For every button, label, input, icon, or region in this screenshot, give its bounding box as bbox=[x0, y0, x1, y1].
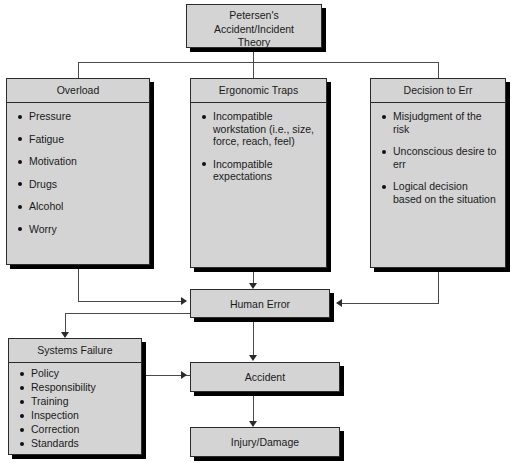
box-systems-failure-list: Policy Responsibility Training Inspectio… bbox=[9, 363, 141, 456]
connector-decision-left bbox=[342, 303, 439, 304]
list-item: Logical decision based on the situation bbox=[381, 180, 499, 205]
box-ergonomic-traps-list: Incompatible workstation (i.e., size, fo… bbox=[191, 103, 326, 189]
box-decision-to-err-list: Misjudgment of the risk Unconscious desi… bbox=[371, 103, 505, 211]
connector-human-error-down bbox=[253, 318, 254, 359]
arrowhead-human-error-to-accident bbox=[249, 355, 257, 361]
arrowhead-decision-to-human-error bbox=[336, 299, 342, 307]
connector-overload-down bbox=[78, 265, 79, 301]
box-ergonomic-traps-header: Ergonomic Traps bbox=[191, 79, 326, 103]
arrowhead-systems-failure-to-accident bbox=[181, 371, 187, 379]
box-human-error[interactable]: Human Error bbox=[190, 289, 330, 318]
list-item: Training bbox=[19, 395, 135, 408]
list-item: Worry bbox=[17, 223, 143, 236]
list-item: Motivation bbox=[17, 155, 143, 168]
list-item: Correction bbox=[19, 423, 135, 436]
list-item: Inspection bbox=[19, 409, 135, 422]
box-title: Petersen's Accident/Incident Theory bbox=[187, 5, 321, 55]
title-line-3: Theory bbox=[191, 36, 317, 50]
list-item: Alcohol bbox=[17, 200, 143, 213]
box-petersens-theory[interactable]: Petersen's Accident/Incident Theory bbox=[186, 4, 322, 48]
list-item: Drugs bbox=[17, 178, 143, 191]
box-injury-damage-label: Injury/Damage bbox=[191, 428, 339, 457]
box-decision-to-err-header: Decision to Err bbox=[371, 79, 505, 103]
list-item: Policy bbox=[19, 367, 135, 380]
box-accident[interactable]: Accident bbox=[190, 362, 340, 392]
arrowhead-overload-to-human-error bbox=[181, 297, 187, 305]
connector-bus-to-ergonomic bbox=[253, 62, 254, 78]
list-item: Fatigue bbox=[17, 133, 143, 146]
connector-top-bus bbox=[78, 62, 438, 63]
connector-bus-to-decision bbox=[438, 62, 439, 78]
box-overload-list: Pressure Fatigue Motivation Drugs Alcoho… bbox=[7, 103, 149, 241]
box-ergonomic-traps[interactable]: Ergonomic Traps Incompatible workstation… bbox=[190, 78, 327, 268]
connector-decision-down bbox=[438, 268, 439, 303]
box-overload-header: Overload bbox=[7, 79, 149, 103]
list-item: Misjudgment of the risk bbox=[381, 110, 499, 135]
box-overload[interactable]: Overload Pressure Fatigue Motivation Dru… bbox=[6, 78, 150, 265]
connector-bus-to-overload bbox=[78, 62, 79, 78]
box-human-error-label: Human Error bbox=[191, 290, 329, 319]
box-accident-label: Accident bbox=[191, 363, 339, 392]
list-item: Incompatible workstation (i.e., size, fo… bbox=[201, 110, 320, 148]
box-systems-failure-header: Systems Failure bbox=[9, 339, 141, 363]
box-systems-failure[interactable]: Systems Failure Policy Responsibility Tr… bbox=[8, 338, 142, 455]
connector-human-error-left bbox=[65, 313, 190, 314]
list-item: Responsibility bbox=[19, 381, 135, 394]
list-item: Pressure bbox=[17, 110, 143, 123]
title-line-1: Petersen's bbox=[191, 9, 317, 23]
title-line-2: Accident/Incident bbox=[191, 23, 317, 37]
box-decision-to-err[interactable]: Decision to Err Misjudgment of the risk … bbox=[370, 78, 506, 268]
connector-overload-right bbox=[78, 301, 182, 302]
list-item: Incompatible expectations bbox=[201, 158, 320, 183]
box-injury-damage[interactable]: Injury/Damage bbox=[190, 427, 340, 457]
list-item: Standards bbox=[19, 437, 135, 450]
diagram-canvas: Petersen's Accident/Incident Theory Over… bbox=[0, 0, 514, 463]
list-item: Unconscious desire to err bbox=[381, 145, 499, 170]
